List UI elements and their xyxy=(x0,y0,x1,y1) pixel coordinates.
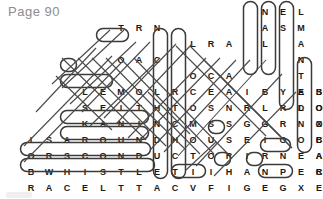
grid-letter[interactable]: U xyxy=(204,134,218,147)
grid-letter[interactable]: L xyxy=(78,86,92,99)
grid-letter[interactable]: I xyxy=(114,102,128,115)
grid-letter[interactable]: M xyxy=(114,86,128,99)
grid-letter[interactable]: I xyxy=(204,166,218,179)
grid-letter[interactable]: R xyxy=(276,102,290,115)
grid-letter[interactable]: E xyxy=(312,182,323,195)
grid-letter[interactable]: A xyxy=(240,166,254,179)
grid-letter[interactable]: N xyxy=(222,102,236,115)
grid-letter[interactable]: G xyxy=(258,118,272,131)
grid-letter[interactable]: I xyxy=(24,134,38,147)
grid-letter[interactable]: D xyxy=(150,134,164,147)
grid-letter[interactable]: I xyxy=(78,166,92,179)
grid-letter[interactable]: G xyxy=(240,118,254,131)
grid-letter[interactable]: I xyxy=(240,150,254,163)
grid-letter[interactable]: O xyxy=(186,102,200,115)
grid-letter-vertical[interactable]: A xyxy=(312,150,323,163)
grid-letter[interactable]: T xyxy=(168,102,182,115)
grid-letter[interactable]: C xyxy=(186,86,200,99)
grid-letter[interactable]: K xyxy=(78,118,92,131)
grid-letter[interactable]: B xyxy=(258,86,272,99)
grid-letter[interactable]: S xyxy=(222,134,236,147)
grid-letter[interactable]: A xyxy=(222,38,236,51)
grid-letter[interactable]: G xyxy=(276,182,290,195)
grid-letter[interactable]: C xyxy=(168,150,182,163)
grid-letter-vertical[interactable]: A xyxy=(294,38,308,51)
grid-letter[interactable]: F xyxy=(204,182,218,195)
grid-letter[interactable]: S xyxy=(222,118,236,131)
grid-letter[interactable]: O xyxy=(294,134,308,147)
grid-letter[interactable]: O xyxy=(186,70,200,83)
grid-letter[interactable]: L xyxy=(132,166,146,179)
grid-letter[interactable]: O xyxy=(24,150,38,163)
grid-letter[interactable]: S xyxy=(204,118,218,131)
grid-letter-vertical[interactable]: N xyxy=(258,6,272,19)
grid-letter[interactable]: N xyxy=(276,150,290,163)
grid-letter[interactable]: N xyxy=(114,150,128,163)
grid-letter[interactable]: H xyxy=(222,166,236,179)
grid-letter[interactable]: A xyxy=(132,54,146,67)
grid-letter[interactable]: I xyxy=(186,166,200,179)
grid-letter[interactable]: S xyxy=(96,166,110,179)
grid-letter-vertical[interactable]: O xyxy=(312,102,323,115)
grid-letter[interactable]: I xyxy=(258,134,272,147)
grid-letter[interactable]: L xyxy=(258,102,272,115)
grid-letter[interactable]: V xyxy=(186,182,200,195)
grid-letter-vertical[interactable]: M xyxy=(294,22,308,35)
grid-letter[interactable]: O xyxy=(114,54,128,67)
grid-letter-vertical[interactable]: N xyxy=(294,54,308,67)
grid-letter[interactable]: A xyxy=(96,118,110,131)
grid-letter[interactable]: N xyxy=(132,134,146,147)
grid-letter[interactable]: S xyxy=(78,102,92,115)
grid-letter[interactable]: O xyxy=(186,134,200,147)
grid-letter[interactable]: L xyxy=(186,38,200,51)
grid-letter[interactable]: R xyxy=(168,86,182,99)
grid-letter[interactable]: G xyxy=(240,182,254,195)
grid-letter-vertical[interactable]: B xyxy=(312,86,323,99)
grid-letter[interactable]: X xyxy=(294,182,308,195)
grid-letter[interactable]: I xyxy=(240,86,254,99)
grid-letter[interactable]: C xyxy=(150,54,164,67)
grid-letter-vertical[interactable]: G xyxy=(258,0,272,3)
grid-letter[interactable]: Y xyxy=(276,86,290,99)
grid-letter[interactable]: G xyxy=(60,198,74,199)
grid-letter[interactable]: B xyxy=(24,166,38,179)
grid-letter[interactable]: E xyxy=(240,134,254,147)
grid-letter[interactable]: H xyxy=(60,166,74,179)
grid-letter[interactable]: H xyxy=(168,134,182,147)
grid-letter[interactable]: E xyxy=(294,150,308,163)
grid-letter[interactable]: S xyxy=(60,150,74,163)
grid-letter[interactable]: D xyxy=(132,150,146,163)
grid-letter[interactable]: T xyxy=(114,22,128,35)
grid-letter-vertical[interactable]: S xyxy=(276,22,290,35)
grid-letter[interactable]: R xyxy=(258,150,272,163)
grid-letter-vertical[interactable]: E xyxy=(276,6,290,19)
grid-letter[interactable]: H xyxy=(150,102,164,115)
grid-letter[interactable]: U xyxy=(150,150,164,163)
grid-letter[interactable]: L xyxy=(150,86,164,99)
grid-letter[interactable]: E xyxy=(150,166,164,179)
grid-letter[interactable]: N xyxy=(114,118,128,131)
grid-letter[interactable]: A xyxy=(78,198,92,199)
grid-letter[interactable]: T xyxy=(114,166,128,179)
grid-letter[interactable]: N xyxy=(258,166,272,179)
grid-letter-vertical[interactable]: X xyxy=(312,118,323,131)
grid-letter[interactable]: O xyxy=(132,86,146,99)
grid-letter[interactable]: E xyxy=(96,102,110,115)
grid-letter-vertical[interactable]: V xyxy=(276,0,290,3)
grid-letter-vertical[interactable]: D xyxy=(294,102,308,115)
grid-letter[interactable]: R xyxy=(240,102,254,115)
grid-letter[interactable]: E xyxy=(258,182,272,195)
grid-letter[interactable]: A xyxy=(222,86,236,99)
grid-letter[interactable]: O xyxy=(96,134,110,147)
grid-letter[interactable]: S xyxy=(204,102,218,115)
grid-letter[interactable]: M xyxy=(186,118,200,131)
grid-letter[interactable]: C xyxy=(168,182,182,195)
grid-letter[interactable]: L xyxy=(96,182,110,195)
grid-letter-vertical[interactable]: E xyxy=(294,86,308,99)
grid-letter[interactable]: A xyxy=(60,134,74,147)
grid-letter[interactable]: P xyxy=(276,166,290,179)
grid-letter[interactable]: T xyxy=(132,102,146,115)
grid-letter[interactable]: W xyxy=(42,166,56,179)
grid-letter[interactable]: E xyxy=(294,166,308,179)
grid-letter[interactable]: T xyxy=(186,150,200,163)
